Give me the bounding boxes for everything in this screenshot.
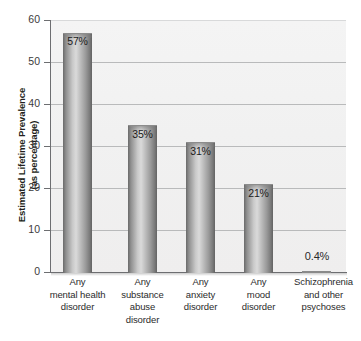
bar-chart: Estimated Lifetime Prevalence (as percen…	[0, 0, 361, 341]
bar-any-substance-abuse-disorder	[128, 125, 157, 273]
bar-any-mental-health-disorder	[63, 33, 92, 273]
bar-value-label-any-substance-abuse-disorder: 35%	[126, 128, 159, 140]
tick-mark-50	[44, 62, 50, 63]
line-4: disorder	[113, 314, 172, 327]
line-2: mental health	[41, 289, 114, 302]
line-1: Any	[230, 276, 287, 289]
x-category-label-any-mood-disorder: Any mood disorder	[230, 276, 287, 314]
line-2: substance	[113, 289, 172, 302]
line-1: Any	[41, 276, 114, 289]
bar-value-label-any-mood-disorder: 21%	[242, 187, 275, 199]
bar-value-label-any-anxiety-disorder: 31%	[184, 145, 217, 157]
tick-mark-20	[44, 188, 50, 189]
y-axis-line	[50, 20, 51, 273]
y-tick-label-50: 50	[6, 56, 40, 67]
y-tick-label-20: 20	[6, 182, 40, 193]
line-3: disorder	[230, 301, 287, 314]
y-tick-label-60: 60	[6, 14, 40, 25]
line-1: Schizophrenia	[286, 276, 361, 289]
line-3: psychoses	[286, 301, 361, 314]
x-category-label-any-substance-abuse-disorder: Any substance abuse disorder	[113, 276, 172, 326]
y-tick-label-40: 40	[6, 98, 40, 109]
line-2: and other	[286, 289, 361, 302]
line-3: disorder	[172, 301, 229, 314]
tick-mark-30	[44, 146, 50, 147]
y-tick-label-0: 0	[6, 266, 40, 277]
y-tick-label-10: 10	[6, 224, 40, 235]
bar-any-anxiety-disorder	[186, 142, 215, 273]
line-3: abuse	[113, 301, 172, 314]
gridline-50	[50, 62, 346, 63]
bar-schizophrenia-and-other-psychoses	[302, 271, 331, 273]
x-category-label-schizophrenia-and-other-psychoses: Schizophrenia and other psychoses	[286, 276, 361, 314]
x-category-label-any-anxiety-disorder: Any anxiety disorder	[172, 276, 229, 314]
y-axis-title: Estimated Lifetime Prevalence (as percen…	[13, 70, 43, 240]
gridline-60	[50, 20, 346, 21]
tick-mark-40	[44, 104, 50, 105]
line-1: Any	[113, 276, 172, 289]
line-2: anxiety	[172, 289, 229, 302]
x-category-label-any-mental-health-disorder: Any mental health disorder	[41, 276, 114, 314]
bar-value-label-any-mental-health-disorder: 57%	[61, 35, 94, 47]
tick-mark-60	[44, 20, 50, 21]
line-2: mood	[230, 289, 287, 302]
y-axis-title-line-2: (as percentage)	[28, 121, 41, 190]
gridline-40	[50, 104, 346, 105]
y-tick-label-30: 30	[6, 140, 40, 151]
tick-mark-0	[44, 272, 50, 273]
bar-value-label-schizophrenia-and-other-psychoses: 0.4%	[295, 250, 339, 262]
tick-mark-10	[44, 230, 50, 231]
line-3: disorder	[41, 301, 114, 314]
line-1: Any	[172, 276, 229, 289]
